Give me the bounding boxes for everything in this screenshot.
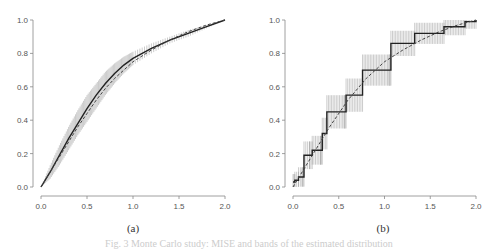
y-tick-label: 0.8 — [17, 49, 29, 58]
y-tick-label: 1.0 — [17, 16, 29, 25]
x-tick-label: 1.0 — [379, 202, 391, 211]
x-tick-label: 0.5 — [81, 202, 93, 211]
y-tick-label: 0.8 — [269, 49, 281, 58]
y-tick-label: 0.6 — [269, 83, 281, 92]
y-tick-label: 0.2 — [17, 150, 29, 159]
x-tick-label: 0.0 — [287, 202, 299, 211]
y-tick-label: 0.4 — [17, 116, 29, 125]
figure-caption: Fig. 3 Monte Carlo study: MISE and bands… — [105, 238, 393, 249]
x-tick-label: 1.0 — [127, 202, 139, 211]
subfigure-label: (a) — [127, 222, 140, 235]
subfigure-label: (b) — [377, 222, 390, 235]
y-tick-label: 1.0 — [269, 16, 281, 25]
plot-a: 0.00.20.40.60.81.00.00.51.01.52.0(a) — [17, 16, 231, 235]
x-tick-label: 1.5 — [173, 202, 185, 211]
x-tick-label: 0.0 — [35, 202, 47, 211]
y-tick-label: 0.6 — [17, 83, 29, 92]
figure: 0.00.20.40.60.81.00.00.51.01.52.0(a)0.00… — [0, 0, 498, 249]
x-tick-label: 0.5 — [333, 202, 345, 211]
estimate-line — [41, 20, 225, 187]
true-line — [41, 20, 225, 187]
y-tick-label: 0.0 — [269, 183, 281, 192]
y-tick-label: 0.2 — [269, 150, 281, 159]
y-tick-label: 0.0 — [17, 183, 29, 192]
plot-b: 0.00.20.40.60.81.00.00.51.01.52.0(b) — [269, 16, 482, 235]
x-tick-label: 1.5 — [425, 202, 437, 211]
y-tick-label: 0.4 — [269, 116, 281, 125]
x-tick-label: 2.0 — [470, 202, 482, 211]
x-tick-label: 2.0 — [219, 202, 231, 211]
